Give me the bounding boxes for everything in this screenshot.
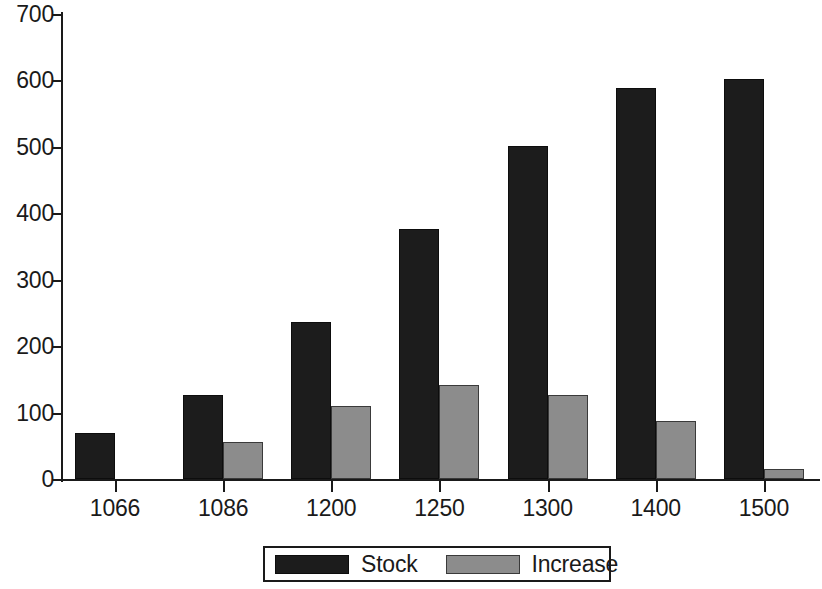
y-axis-tick-label: 400 xyxy=(16,202,54,225)
bar-group xyxy=(399,14,493,479)
bar-group xyxy=(724,14,818,479)
x-axis-tick-mark xyxy=(223,481,225,492)
y-axis-tick-label: 100 xyxy=(16,401,54,424)
bar-group xyxy=(508,14,602,479)
bar-increase xyxy=(656,421,696,479)
bar-group xyxy=(75,14,169,479)
y-axis-tick-label: 200 xyxy=(16,335,54,358)
legend-item: Increase xyxy=(446,553,619,576)
legend-swatch-increase xyxy=(446,555,520,574)
x-axis-tick-mark xyxy=(439,481,441,492)
bar-group xyxy=(183,14,277,479)
legend-swatch-stock xyxy=(275,555,349,574)
bar-stock xyxy=(508,146,548,479)
x-axis-tick-mark xyxy=(548,481,550,492)
x-axis-tick-mark xyxy=(115,481,117,492)
legend-label-stock: Stock xyxy=(361,553,418,576)
bar-chart: 0100200300400500600700 10661086120012501… xyxy=(0,0,822,589)
x-axis-tick-label: 1200 xyxy=(306,497,356,520)
bar-increase xyxy=(223,442,263,479)
bar-group xyxy=(291,14,385,479)
bar-increase xyxy=(548,395,588,479)
y-axis-tick-label: 500 xyxy=(16,135,54,158)
x-axis-tick-label: 1066 xyxy=(90,497,140,520)
bar-group xyxy=(616,14,710,479)
bar-increase xyxy=(764,469,804,479)
y-axis-tick-label: 300 xyxy=(16,268,54,291)
chart-legend: StockIncrease xyxy=(263,546,611,582)
legend-item: Stock xyxy=(275,553,418,576)
x-axis-tick-label: 1250 xyxy=(414,497,464,520)
bar-stock xyxy=(183,395,223,479)
bar-increase xyxy=(439,385,479,479)
x-axis-tick-mark xyxy=(331,481,333,492)
bar-stock xyxy=(291,322,331,479)
legend-label-increase: Increase xyxy=(532,553,619,576)
y-axis-tick-label: 600 xyxy=(16,69,54,92)
x-axis-tick-label: 1300 xyxy=(522,497,572,520)
x-axis-tick-label: 1400 xyxy=(631,497,681,520)
x-axis-tick-mark xyxy=(764,481,766,492)
y-axis-tick-label: 700 xyxy=(16,3,54,26)
x-axis-tick-label: 1500 xyxy=(739,497,789,520)
bar-stock xyxy=(75,433,115,480)
bar-stock xyxy=(724,79,764,479)
x-axis-tick-label: 1086 xyxy=(198,497,248,520)
bar-stock xyxy=(616,88,656,479)
bar-increase xyxy=(331,406,371,479)
y-axis-tick-label: 0 xyxy=(41,468,54,491)
x-axis-tick-mark xyxy=(656,481,658,492)
x-axis-ticks: 1066108612001250130014001500 xyxy=(61,481,820,531)
bar-stock xyxy=(399,229,439,479)
plot-area: 0100200300400500600700 xyxy=(61,14,818,479)
